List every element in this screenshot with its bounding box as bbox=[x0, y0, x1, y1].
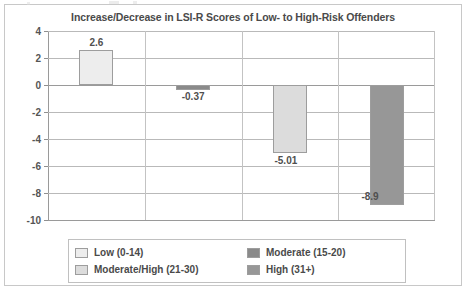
y-axis-label: -10 bbox=[27, 215, 41, 226]
bar-value-label: -8.9 bbox=[329, 191, 379, 202]
y-axis-label: -8 bbox=[32, 188, 41, 199]
bar-value-label: 2.6 bbox=[66, 37, 126, 48]
bar bbox=[273, 85, 307, 153]
y-tick-mark bbox=[44, 85, 48, 86]
legend-swatch-moderate bbox=[247, 248, 260, 258]
y-axis-line bbox=[48, 31, 49, 220]
y-tick-mark bbox=[44, 58, 48, 59]
y-tick-mark bbox=[44, 31, 48, 32]
chart-title: Increase/Decrease in LSI-R Scores of Low… bbox=[5, 11, 461, 23]
scan-artifact bbox=[133, 1, 137, 4]
legend-row: Low (0-14) Moderate (15-20) bbox=[75, 244, 405, 261]
plot-inner: 420-2-4-6-8-102.6-0.37-5.01-8.9 bbox=[48, 31, 435, 220]
legend-label-low: Low (0-14) bbox=[94, 247, 143, 258]
legend-label-moderate-high: Moderate/High (21-30) bbox=[94, 264, 198, 275]
y-axis-label: -2 bbox=[32, 107, 41, 118]
legend-swatch-high bbox=[247, 265, 260, 275]
y-axis-label: -4 bbox=[32, 134, 41, 145]
y-axis-label: 4 bbox=[35, 26, 41, 37]
y-tick-mark bbox=[44, 166, 48, 167]
y-axis-label: 0 bbox=[35, 80, 41, 91]
legend-label-moderate: Moderate (15-20) bbox=[266, 247, 345, 258]
legend-item-moderate: Moderate (15-20) bbox=[247, 247, 345, 258]
gridline bbox=[48, 220, 435, 221]
plot-right-edge bbox=[434, 31, 435, 220]
y-axis-label: 2 bbox=[35, 53, 41, 64]
category-divider bbox=[145, 31, 146, 220]
legend-row: Moderate/High (21-30) High (31+) bbox=[75, 261, 405, 278]
scan-artifact bbox=[27, 2, 30, 5]
y-tick-mark bbox=[44, 193, 48, 194]
y-tick-mark bbox=[44, 139, 48, 140]
chart-legend: Low (0-14) Moderate (15-20) Moderate/Hig… bbox=[68, 239, 406, 283]
legend-item-high: High (31+) bbox=[247, 264, 315, 275]
scan-artifact bbox=[109, 1, 119, 4]
legend-item-moderate-high: Moderate/High (21-30) bbox=[75, 264, 247, 275]
y-tick-mark bbox=[44, 220, 48, 221]
bar bbox=[176, 85, 210, 90]
y-tick-mark bbox=[44, 112, 48, 113]
bar bbox=[79, 50, 113, 85]
bar-value-label: -5.01 bbox=[256, 155, 316, 166]
plot-area: 420-2-4-6-8-102.6-0.37-5.01-8.9 bbox=[48, 31, 435, 220]
legend-swatch-moderate-high bbox=[75, 265, 88, 275]
y-axis-label: -6 bbox=[32, 161, 41, 172]
bar-value-label: -0.37 bbox=[163, 91, 223, 102]
legend-item-low: Low (0-14) bbox=[75, 247, 247, 258]
chart-frame: Increase/Decrease in LSI-R Scores of Low… bbox=[4, 4, 462, 286]
bar bbox=[370, 85, 404, 205]
category-divider bbox=[242, 31, 243, 220]
legend-label-high: High (31+) bbox=[266, 264, 315, 275]
legend-swatch-low bbox=[75, 248, 88, 258]
